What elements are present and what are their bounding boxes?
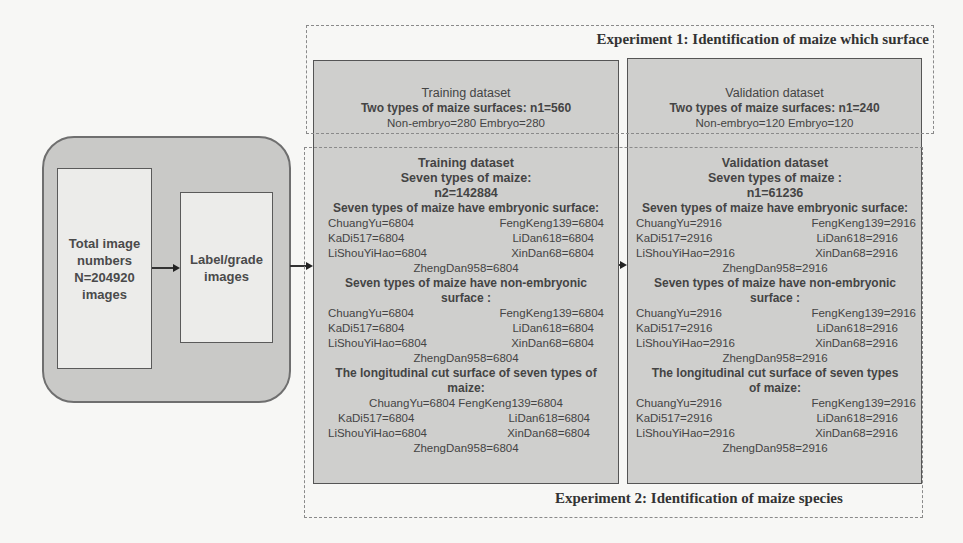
list-item: XinDan68=2916 [815, 336, 898, 351]
label-line-1: Label/grade [190, 251, 263, 268]
section-title: Seven types of maize have embryonic surf… [630, 201, 920, 216]
list-item: LiShouYiHao=2916 [636, 426, 735, 441]
list-item: XinDan68=2916 [815, 246, 898, 261]
section-title: Seven types of maize have embryonic surf… [318, 201, 614, 216]
list-row: KaDi517=2916LiDan618=2916 [630, 411, 920, 426]
exp1-validation-subheading: Two types of maize surfaces: n1=240 [627, 101, 922, 116]
list-row: ChuangYu=6804FengKeng139=6804 [318, 306, 614, 321]
section-title: Seven types of maize have non-embryonic … [630, 276, 920, 306]
list-row: KaDi517=6804LiDan618=6804 [318, 411, 614, 426]
total-images-box: Total image numbers N=204920 images [57, 168, 152, 369]
experiment-1-title: Experiment 1: Identification of maize wh… [597, 31, 929, 48]
list-row: LiShouYiHao=6804XinDan68=6804 [318, 246, 614, 261]
list-item: LiShouYiHao=2916 [636, 246, 735, 261]
list-row: KaDi517=2916LiDan618=2916 [630, 231, 920, 246]
exp1-validation-text: Validation dataset Two types of maize su… [627, 86, 922, 131]
list-item: LiDan618=6804 [512, 231, 594, 246]
list-item: KaDi517=6804 [338, 411, 414, 426]
list-item: LiShouYiHao=6804 [328, 336, 427, 351]
exp2-validation-heading: Validation dataset [630, 156, 920, 171]
list-item: LiDan618=2916 [816, 411, 898, 426]
list-row: KaDi517=6804LiDan618=6804 [318, 321, 614, 336]
list-row: LiShouYiHao=6804XinDan68=6804 [318, 336, 614, 351]
list-item: ChuangYu=2916 [636, 216, 722, 231]
exp1-validation-detail: Non-embryo=120 Embryo=120 [627, 116, 922, 131]
list-item: FengKeng139=2916 [811, 306, 916, 321]
exp1-training-text: Training dataset Two types of maize surf… [313, 86, 619, 131]
list-item: KaDi517=2916 [636, 321, 712, 336]
list-item: ZhengDan958=6804 [318, 351, 614, 366]
exp2-training-text: Training dataset Seven types of maize: n… [318, 156, 614, 456]
list-item: FengKeng139=6804 [499, 306, 604, 321]
total-line-1: Total image [69, 235, 140, 252]
exp1-training-detail: Non-embryo=280 Embryo=280 [313, 116, 619, 131]
list-item: FengKeng139=2916 [811, 216, 916, 231]
list-item: KaDi517=2916 [636, 231, 712, 246]
list-item: ZhengDan958=2916 [630, 351, 920, 366]
list-row: LiShouYiHao=2916XinDan68=2916 [630, 426, 920, 441]
list-item: LiShouYiHao=2916 [636, 336, 735, 351]
list-row: LiShouYiHao=2916XinDan68=2916 [630, 336, 920, 351]
list-row: KaDi517=2916LiDan618=2916 [630, 321, 920, 336]
list-item: KaDi517=6804 [328, 321, 404, 336]
list-item: ZhengDan958=6804 [318, 261, 614, 276]
list-item: KaDi517=2916 [636, 411, 712, 426]
list-item: FengKeng139=2916 [811, 396, 916, 411]
list-item: XinDan68=6804 [511, 336, 594, 351]
list-item: KaDi517=6804 [328, 231, 404, 246]
list-item: ChuangYu=2916 [636, 396, 722, 411]
exp2-validation-count: n1=61236 [630, 186, 920, 201]
list-item: ChuangYu=6804 [328, 306, 414, 321]
list-row: LiShouYiHao=6804XinDan68=6804 [318, 426, 614, 441]
list-item: XinDan68=6804 [511, 246, 594, 261]
list-item: LiDan618=2916 [816, 321, 898, 336]
exp1-training-subheading: Two types of maize surfaces: n1=560 [313, 101, 619, 116]
list-item: LiShouYiHao=6804 [328, 246, 427, 261]
list-row: ChuangYu=2916FengKeng139=2916 [630, 306, 920, 321]
experiment-2-title: Experiment 2: Identification of maize sp… [555, 490, 843, 507]
list-item: ZhengDan958=6804 [318, 441, 614, 456]
list-item: LiDan618=6804 [512, 321, 594, 336]
list-item: ZhengDan958=2916 [630, 261, 920, 276]
section-title: The longitudinal cut surface of seven ty… [630, 366, 920, 396]
list-row: KaDi517=6804LiDan618=6804 [318, 231, 614, 246]
exp2-training-heading: Training dataset [318, 156, 614, 171]
list-row: ChuangYu=2916FengKeng139=2916 [630, 396, 920, 411]
section-title: Seven types of maize have non-embryonic … [318, 276, 614, 306]
total-line-3: N=204920 [69, 269, 140, 286]
exp2-training-subheading: Seven types of maize: [318, 171, 614, 186]
total-line-2: numbers [69, 252, 140, 269]
label-line-2: images [190, 268, 263, 285]
list-item: XinDan68=2916 [815, 426, 898, 441]
arrow-total-to-label [152, 267, 174, 269]
list-item: ChuangYu=2916 [636, 306, 722, 321]
arrow-head-icon [173, 264, 180, 272]
total-line-4: images [69, 286, 140, 303]
exp1-training-heading: Training dataset [313, 86, 619, 101]
list-item: ZhengDan958=2916 [630, 441, 920, 456]
label-grade-box: Label/grade images [180, 192, 273, 343]
exp2-validation-subheading: Seven types of maize : [630, 171, 920, 186]
exp2-validation-text: Validation dataset Seven types of maize … [630, 156, 920, 456]
list-row: ChuangYu=6804FengKeng139=6804 [318, 216, 614, 231]
list-item: LiDan618=2916 [816, 231, 898, 246]
list-item: FengKeng139=6804 [499, 216, 604, 231]
list-row: ChuangYu=2916FengKeng139=2916 [630, 216, 920, 231]
list-item: XinDan68=6804 [507, 426, 590, 441]
list-item: LiDan618=6804 [508, 411, 590, 426]
list-item: ChuangYu=6804 FengKeng139=6804 [318, 396, 614, 411]
section-title: The longitudinal cut surface of seven ty… [318, 366, 614, 396]
exp2-training-count: n2=142884 [318, 186, 614, 201]
exp1-validation-heading: Validation dataset [627, 86, 922, 101]
list-row: LiShouYiHao=2916XinDan68=2916 [630, 246, 920, 261]
list-item: LiShouYiHao=6804 [328, 426, 427, 441]
list-item: ChuangYu=6804 [328, 216, 414, 231]
